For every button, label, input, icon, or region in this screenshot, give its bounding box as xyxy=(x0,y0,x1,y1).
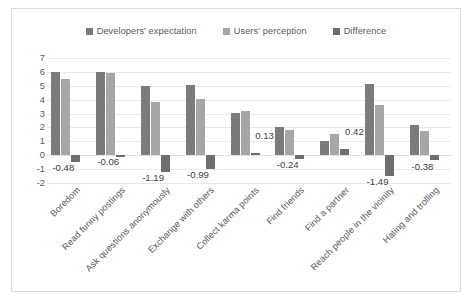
bars xyxy=(316,58,361,183)
bar-rect xyxy=(51,72,60,155)
bar-rect xyxy=(196,99,205,155)
x-axis-label: Boredom xyxy=(48,185,82,219)
legend-swatch-users-perception xyxy=(223,28,230,35)
x-axis-label-text: Boredom xyxy=(48,185,82,219)
bar-rect xyxy=(61,79,70,155)
data-label-difference: -0.24 xyxy=(277,160,299,170)
bar-rect xyxy=(320,141,329,156)
bar-rect xyxy=(410,125,419,155)
bar-group: -0.06 xyxy=(92,58,137,183)
x-axis-label: Ask questions anonymously xyxy=(83,185,172,274)
legend-item-users-perception[interactable]: Users' perception xyxy=(223,26,307,36)
x-axis-label-text: Reach people in the vicinity xyxy=(309,185,396,272)
data-label-difference: -0.06 xyxy=(97,157,119,167)
bar-rect xyxy=(430,155,439,160)
y-axis-tick: 2 xyxy=(17,127,45,128)
bar-rect xyxy=(330,134,339,155)
bar-rect xyxy=(231,113,240,155)
data-label-difference: -1.19 xyxy=(142,173,164,183)
bars xyxy=(137,58,182,183)
x-axis-label: Reach people in the vicinity xyxy=(309,185,396,272)
bar-rect xyxy=(241,111,250,155)
legend-swatch-developers-expectation xyxy=(86,28,93,35)
bar-group: -0.48 xyxy=(47,58,92,183)
bar-rect xyxy=(285,130,294,155)
bar-rect xyxy=(186,85,195,155)
legend-swatch-difference xyxy=(333,28,340,35)
y-axis-tick: 6 xyxy=(17,72,45,73)
plot-area: 76543210-1-2 -0.48-0.06-1.19-0.990.13-0.… xyxy=(47,58,451,183)
bar-rect xyxy=(206,155,215,169)
y-axis-tick: -1 xyxy=(17,169,45,170)
y-axis-tick: -2 xyxy=(17,183,45,184)
x-axis-label: Find friends xyxy=(265,185,307,227)
data-label-difference: -0.38 xyxy=(412,162,434,172)
bar-group: -1.19 xyxy=(137,58,182,183)
gridline xyxy=(47,183,451,184)
legend-label-users-perception: Users' perception xyxy=(234,26,307,36)
chart-container: Developers' expectation Users' perceptio… xyxy=(11,8,461,292)
bar-group: 0.13 xyxy=(227,58,272,183)
bar-rect xyxy=(420,131,429,155)
y-axis-tick: 4 xyxy=(17,100,45,101)
legend-label-developers-expectation: Developers' expectation xyxy=(97,26,197,36)
chart-legend: Developers' expectation Users' perceptio… xyxy=(12,26,460,36)
x-axis-labels: BoredomRead funny postingsAsk questions … xyxy=(47,185,451,295)
bar-group: 0.42 xyxy=(316,58,361,183)
bar-rect xyxy=(275,127,284,155)
y-axis-tick: 1 xyxy=(17,141,45,142)
bar-rect xyxy=(161,155,170,172)
legend-item-developers-expectation[interactable]: Developers' expectation xyxy=(86,26,197,36)
legend-label-difference: Difference xyxy=(344,26,387,36)
bar-rect xyxy=(151,102,160,155)
x-axis-label-text: Find a partner xyxy=(303,185,351,233)
bar-rect xyxy=(365,84,374,155)
y-axis-tick: 0 xyxy=(17,155,45,156)
bar-groups: -0.48-0.06-1.19-0.990.13-0.240.42-1.49-0… xyxy=(47,58,451,183)
bar-rect xyxy=(106,73,115,156)
data-label-difference: -0.48 xyxy=(52,163,74,173)
bar-rect xyxy=(340,149,349,155)
bar-group: -0.24 xyxy=(271,58,316,183)
bar-group: -1.49 xyxy=(361,58,406,183)
bar-rect xyxy=(385,155,394,176)
bar-rect xyxy=(141,86,150,155)
x-axis-label-text: Find friends xyxy=(265,185,307,227)
bar-rect xyxy=(96,72,105,155)
y-axis-tick: 3 xyxy=(17,114,45,115)
y-axis-tick: 7 xyxy=(17,58,45,59)
bar-rect xyxy=(71,155,80,162)
y-axis-tick: 5 xyxy=(17,86,45,87)
legend-item-difference[interactable]: Difference xyxy=(333,26,387,36)
bars xyxy=(361,58,406,183)
bar-group: -0.38 xyxy=(406,58,451,183)
x-axis-label: Find a partner xyxy=(303,185,351,233)
data-label-difference: -0.99 xyxy=(187,170,209,180)
x-axis-label-text: Ask questions anonymously xyxy=(83,185,172,274)
bars xyxy=(227,58,272,183)
bars xyxy=(182,58,227,183)
bar-rect xyxy=(375,105,384,155)
bar-group: -0.99 xyxy=(182,58,227,183)
bar-rect xyxy=(251,153,260,155)
